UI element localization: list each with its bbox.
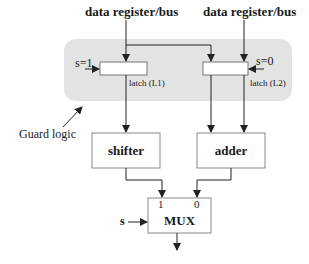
latch-l2 (203, 62, 248, 75)
guard-logic-label: Guard logic (19, 128, 76, 140)
guard-logic-arrow (63, 107, 82, 127)
mux-label: MUX (148, 214, 211, 227)
mux-select-label: s (120, 215, 125, 227)
mux-input-0-label: 0 (194, 199, 200, 210)
input-label-left: data register/bus (85, 5, 178, 18)
input-label-right: data register/bus (203, 5, 296, 18)
latch-l1-select-label: s=1 (75, 57, 92, 69)
mux-input-1-label: 1 (158, 199, 164, 210)
shifter-label: shifter (92, 144, 160, 157)
latch-l1 (100, 62, 147, 75)
guard-logic-region (64, 39, 292, 101)
adder-label: adder (197, 144, 265, 157)
latch-l2-select-label: s=0 (256, 55, 273, 67)
latch-l1-label: latch (L1) (129, 79, 165, 88)
latch-l2-label: latch (L2) (250, 79, 286, 88)
